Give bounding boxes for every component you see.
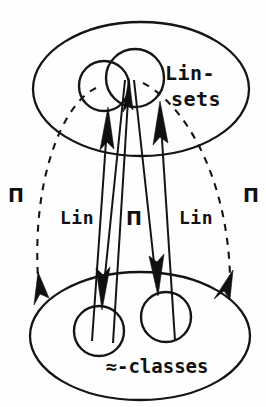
arrow-middle-down-head (149, 254, 164, 296)
downward-arrow-group (96, 80, 164, 310)
bottom-circle-left (74, 306, 124, 356)
top-set-label-line2: sets (171, 87, 221, 111)
arrow-lin-left-up-shaft (92, 127, 107, 341)
bottom-set-ellipse-outline (30, 272, 250, 400)
map-label-lin-right: Lin (179, 207, 213, 228)
arrow-lin-left-up-head (100, 107, 114, 150)
diagram-canvas: Lin- sets ≈-classes Π Π Lin Π Lin (0, 0, 266, 407)
arrow-left-down-head (96, 267, 110, 310)
arrow-middle-down-shaft (134, 80, 155, 272)
map-label-lin-left: Lin (60, 207, 94, 228)
left-arc-label-pi: Π (8, 184, 24, 206)
dashed-arc-right (143, 83, 230, 276)
right-arc-label-pi: Π (243, 184, 259, 206)
bottom-set-group (30, 272, 250, 400)
arrow-lin-right-up-shaft (161, 124, 175, 341)
arrow-lin-right-up-head (153, 101, 168, 145)
dashed-arc-left-arrowhead (34, 272, 49, 305)
top-set-label-line1: Lin- (165, 61, 215, 85)
map-label-pi-middle: Π (126, 207, 142, 229)
dashed-arc-left (37, 88, 96, 278)
bottom-circle-right (141, 292, 191, 342)
commutative-diagram-figure: Lin- sets ≈-classes Π Π Lin Π Lin (0, 0, 266, 407)
bottom-set-label: ≈-classes (106, 355, 209, 377)
